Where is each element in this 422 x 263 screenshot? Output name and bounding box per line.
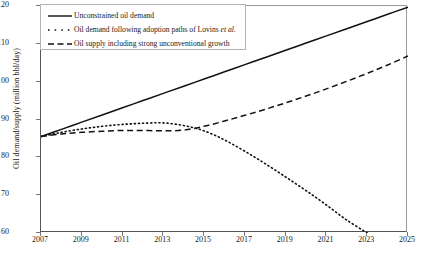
legend-key-solid-icon (47, 11, 73, 21)
y-tick-label: 60 (0, 228, 9, 236)
x-tick-label: 2021 (305, 236, 345, 244)
y-tick-label: 90 (0, 115, 9, 123)
legend-key-dashed-icon (47, 39, 73, 49)
y-tick-label: 120 (0, 1, 9, 9)
x-tick-label: 2019 (265, 236, 305, 244)
legend-label-lovins-etal: et al. (221, 25, 236, 34)
legend-item-lovins-adoption-paths: Oil demand following adoption paths of L… (47, 23, 245, 36)
legend-item-oil-supply-unconventional: Oil supply including strong unconvention… (47, 37, 245, 50)
legend-item-unconstrained-oil-demand: Unconstrained oil demand (47, 9, 245, 22)
oil-demand-supply-chart: Oil demand/supply (million bbl/day) 6070… (0, 0, 422, 263)
series-line-2 (41, 56, 408, 137)
x-tick-label: 2009 (61, 236, 101, 244)
x-tick-label: 2011 (102, 236, 142, 244)
legend-key-dotted-icon (47, 25, 73, 35)
y-tick-label: 80 (0, 152, 9, 160)
y-tick-label: 110 (0, 39, 9, 47)
legend-label-lovins-prefix: Oil demand following adoption paths of L… (74, 25, 221, 34)
series-line-1 (41, 123, 367, 233)
x-tick-label: 2013 (142, 236, 182, 244)
x-tick-label: 2017 (224, 236, 264, 244)
y-axis-title: Oil demand/supply (million bbl/day) (12, 19, 21, 199)
x-tick-label: 2007 (20, 236, 60, 244)
y-tick-label: 70 (0, 190, 9, 198)
legend-label-unconstrained-oil-demand: Unconstrained oil demand (73, 11, 154, 20)
legend: Unconstrained oil demand Oil demand foll… (40, 4, 246, 50)
legend-label-oil-supply-unconventional: Oil supply including strong unconvention… (73, 39, 229, 48)
y-tick-label: 100 (0, 77, 9, 85)
x-tick-label: 2015 (183, 236, 223, 244)
legend-label-lovins-adoption-paths: Oil demand following adoption paths of L… (73, 25, 236, 34)
x-tick-label: 2023 (346, 236, 386, 244)
x-tick-label: 2025 (387, 236, 422, 244)
